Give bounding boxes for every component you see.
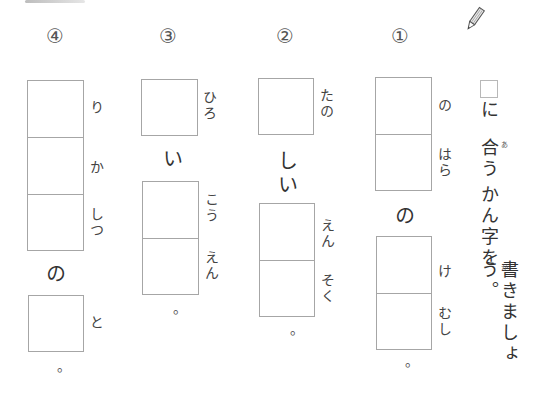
q3-answer-boxes[interactable] [142, 181, 199, 295]
q4-reading-to: と [88, 315, 104, 331]
q2-period: 。 [290, 318, 304, 338]
q2-box-tano[interactable] [258, 78, 314, 135]
q2-box-en[interactable] [260, 204, 314, 261]
q3-reading-en: えん [203, 250, 219, 282]
q3-box-en[interactable] [143, 239, 198, 295]
question-number-3: ③ [153, 25, 183, 47]
pencil-icon [464, 6, 486, 32]
q3-reading-hiro: ひろ [201, 90, 217, 122]
q4-text-no: の [43, 263, 65, 287]
q1-box-no[interactable] [376, 78, 431, 135]
q3-period: 。 [173, 297, 187, 317]
q1-reading-mushi: むし [436, 306, 452, 338]
q4-reading-ka: か [88, 160, 104, 176]
q4-box-shitsu[interactable] [28, 195, 83, 250]
ruby-ka: か [501, 262, 508, 272]
q4-reading-shitsu: しつ [88, 207, 104, 239]
instruction-au: 合う [478, 138, 498, 180]
q4-box-ka[interactable] [28, 138, 83, 195]
q2-reading-en: えん [319, 218, 335, 250]
q2-answer-boxes[interactable] [259, 203, 315, 317]
q2-box-soku[interactable] [260, 261, 314, 317]
instruction-kakimashou: 書きましょう。 [478, 260, 518, 406]
q4-answer-boxes-a[interactable] [27, 80, 84, 251]
question-number-2: ② [270, 25, 300, 47]
q1-box-ke[interactable] [377, 237, 431, 294]
q1-reading-hara: はら [436, 147, 452, 179]
instruction-kanji-wo: かん字を [478, 185, 498, 269]
q2-reading-soku: そく [319, 273, 335, 305]
q1-period: 。 [405, 350, 419, 370]
q3-box-hiro[interactable] [141, 79, 198, 136]
q3-text-i: い [160, 148, 182, 172]
q4-reading-ri: り [88, 100, 104, 116]
q1-reading-no: の [436, 98, 452, 114]
q1-box-hara[interactable] [376, 135, 431, 191]
q4-box-to[interactable] [28, 295, 84, 352]
ruby-a: あ [501, 139, 508, 149]
q1-answer-boxes-b[interactable] [376, 236, 432, 350]
q1-answer-boxes-a[interactable] [375, 77, 432, 191]
q2-reading-tano: たの [318, 88, 334, 120]
question-number-1: ① [385, 25, 415, 47]
q1-text-no: の [392, 205, 414, 229]
scan-artifact [25, 0, 85, 3]
question-number-4: ④ [40, 25, 70, 47]
q3-reading-kou: こう [203, 192, 219, 224]
q1-box-mushi[interactable] [377, 294, 431, 350]
q4-period: 。 [57, 355, 71, 375]
q2-text-shii: しい [275, 150, 297, 198]
q1-reading-ke: け [436, 264, 452, 280]
q3-box-kou[interactable] [143, 182, 198, 239]
instruction-ni: に [478, 100, 498, 121]
q4-box-ri[interactable] [28, 81, 83, 138]
instruction-answer-box-sample [480, 80, 498, 98]
